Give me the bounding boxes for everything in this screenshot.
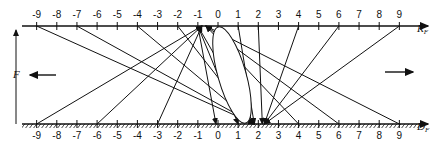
bottom-axis-name: DF bbox=[416, 120, 430, 134]
top-tick-label: 9 bbox=[397, 9, 403, 20]
bottom-tick-label: 3 bbox=[276, 130, 282, 141]
bottom-tick-label: 8 bbox=[376, 130, 382, 141]
top-tick-label: 4 bbox=[296, 9, 302, 20]
bottom-tick-label: 0 bbox=[215, 130, 221, 141]
force-label: F bbox=[12, 68, 20, 80]
top-tick-label: -4 bbox=[133, 9, 142, 20]
connection-line bbox=[258, 26, 262, 124]
bottom-tick-label: 4 bbox=[296, 130, 302, 141]
bottom-tick-label: -3 bbox=[153, 130, 162, 141]
bottom-tick-label: -4 bbox=[133, 130, 142, 141]
top-tick-label: -2 bbox=[173, 9, 182, 20]
bottom-tick-label: 2 bbox=[256, 130, 262, 141]
top-tick-label: -9 bbox=[32, 9, 41, 20]
connection-line bbox=[264, 26, 298, 124]
bottom-tick-label: 5 bbox=[316, 130, 322, 141]
top-tick-label: -5 bbox=[113, 9, 122, 20]
top-tick-label: 8 bbox=[376, 9, 382, 20]
top-tick-label: 0 bbox=[215, 9, 221, 20]
top-tick-label: 3 bbox=[276, 9, 282, 20]
bottom-tick-label: -9 bbox=[32, 130, 41, 141]
top-tick-label: 6 bbox=[336, 9, 342, 20]
bottom-tick-label: -8 bbox=[52, 130, 61, 141]
top-tick-label: -1 bbox=[193, 9, 202, 20]
top-tick-label: -3 bbox=[153, 9, 162, 20]
force-axis: F bbox=[12, 30, 20, 124]
bottom-tick-label: -5 bbox=[113, 130, 122, 141]
top-tick-label: 5 bbox=[316, 9, 322, 20]
top-tick-label: 7 bbox=[356, 9, 362, 20]
bottom-tick-label: 6 bbox=[336, 130, 342, 141]
top-tick-label: -7 bbox=[72, 9, 81, 20]
top-axis-name: RF bbox=[416, 22, 429, 36]
bottom-tick-label: -2 bbox=[173, 130, 182, 141]
top-tick-label: -8 bbox=[52, 9, 61, 20]
connection-line bbox=[37, 26, 202, 124]
bottom-tick-label: 9 bbox=[397, 130, 403, 141]
connection-line bbox=[97, 26, 202, 124]
top-tick-label: -6 bbox=[93, 9, 102, 20]
top-tick-label: 1 bbox=[235, 9, 241, 20]
bottom-tick-label: -7 bbox=[72, 130, 81, 141]
bottom-tick-label: -6 bbox=[93, 130, 102, 141]
top-tick-label: 2 bbox=[256, 9, 262, 20]
bottom-tick-label: -1 bbox=[193, 130, 202, 141]
force-diagram: -9-8-7-6-5-4-3-2-10123456789 RF -9-8-7-6… bbox=[0, 0, 441, 146]
bottom-axis: -9-8-7-6-5-4-3-2-10123456789 DF bbox=[22, 120, 430, 141]
ellipse bbox=[205, 23, 259, 127]
bottom-tick-label: 1 bbox=[235, 130, 241, 141]
bottom-tick-label: 7 bbox=[356, 130, 362, 141]
